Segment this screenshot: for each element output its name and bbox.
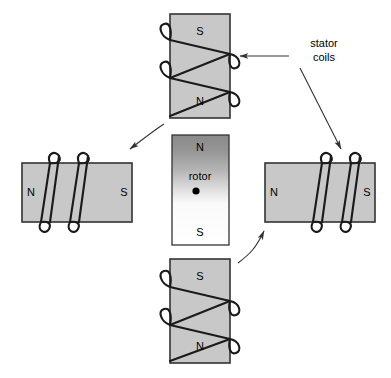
left-stator-pole-left: N	[27, 186, 35, 199]
bottom-stator-pole-top: S	[196, 270, 203, 283]
left-stator-magnet-group	[22, 153, 132, 232]
bottom-stator-pole-bottom: N	[196, 340, 204, 353]
left-stator-pole-right: S	[120, 186, 127, 199]
top-stator-pole-top: S	[196, 25, 203, 38]
rotation-arrow-upper-left	[130, 124, 164, 149]
rotation-arrow-lower-right	[238, 231, 264, 263]
callout-arrow-right	[300, 68, 341, 149]
stator-coils-callout-line1: stator	[310, 37, 338, 50]
top-stator-pole-bottom: N	[196, 95, 204, 108]
right-stator-pole-left: N	[270, 186, 278, 199]
rotor-label: rotor	[189, 170, 212, 183]
rotor-pole-bottom: S	[196, 226, 203, 239]
rotor-center-dot	[192, 187, 199, 194]
stator-coils-callout-line2: coils	[313, 51, 335, 64]
right-stator-magnet-group	[265, 153, 375, 232]
rotor-pole-top: N	[196, 141, 204, 154]
diagram-canvas: S N S N N S N S N rotor S stator coils	[0, 0, 391, 378]
right-stator-pole-right: S	[363, 186, 370, 199]
